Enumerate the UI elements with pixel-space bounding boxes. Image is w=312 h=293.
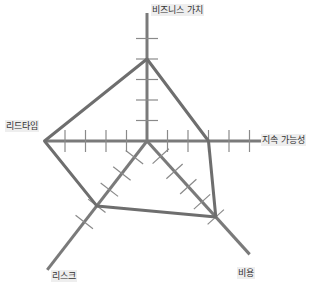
radar-axes: [45, 13, 270, 270]
data-polygon: [45, 59, 216, 217]
axis-label-risk: 리스크: [51, 270, 77, 282]
axis-label-lead-time: 리드타임: [5, 120, 39, 132]
tick-mark: [126, 150, 143, 163]
axis-label-business-value: 비즈니스 가치: [151, 4, 204, 16]
tick-mark: [76, 215, 93, 228]
axis-label-cost: 비용: [237, 267, 255, 279]
tick-mark: [101, 183, 118, 196]
axis-label-sustainability: 지속 가능성: [261, 134, 306, 146]
radar-chart: [0, 0, 312, 293]
tick-mark: [113, 167, 130, 180]
axis-cost: [147, 141, 250, 254]
